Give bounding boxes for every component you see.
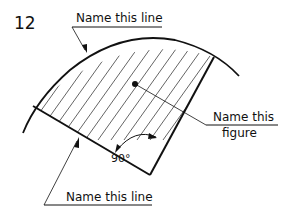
bottom-leader-arrow-icon <box>74 137 79 148</box>
angle-arrow-right-icon <box>148 133 157 139</box>
bottom-line-label: Name this line <box>66 190 153 204</box>
figure-label-line1: Name this <box>213 110 274 124</box>
top-leader-arrow-icon <box>82 44 87 53</box>
sector-diagram: 12 90° Name this line Name this figure <box>0 0 288 218</box>
figure-number: 12 <box>14 13 36 33</box>
chord-line <box>33 106 150 175</box>
top-line-label: Name this line <box>76 11 163 25</box>
figure-label-line2: figure <box>222 126 257 140</box>
radius-line <box>150 57 214 175</box>
angle-label: 90° <box>111 152 131 165</box>
